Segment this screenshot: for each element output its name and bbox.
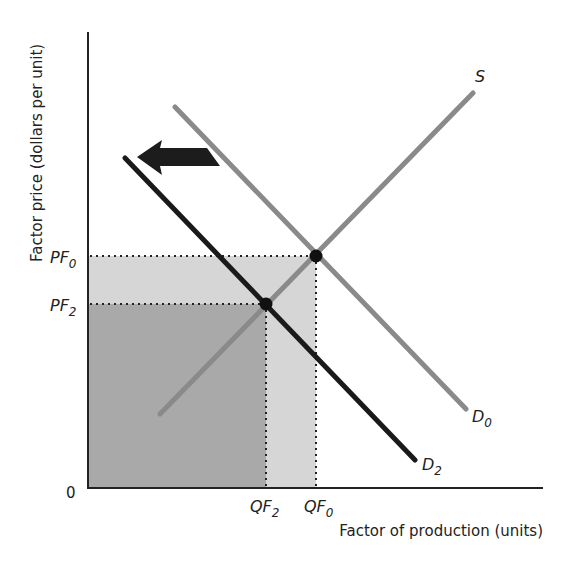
label-d0: D0 bbox=[472, 407, 492, 430]
y-axis-title: Factor price (dollars per unit) bbox=[28, 44, 46, 262]
origin-label: 0 bbox=[66, 484, 76, 502]
y-tick-pf0: PF0 bbox=[50, 248, 77, 271]
equilibrium-point-e2 bbox=[260, 298, 273, 311]
equilibrium-point-e0 bbox=[310, 250, 323, 263]
label-d2: D2 bbox=[422, 455, 442, 478]
x-axis-title: Factor of production (units) bbox=[339, 522, 543, 540]
shift-left-arrow-icon bbox=[137, 140, 220, 175]
x-tick-qf0: QF0 bbox=[304, 497, 334, 520]
chart: Factor price (dollars per unit) PF0 PF2 … bbox=[0, 0, 567, 564]
y-tick-pf2: PF2 bbox=[50, 296, 77, 319]
x-tick-qf2: QF2 bbox=[250, 497, 279, 520]
label-s: S bbox=[475, 67, 485, 86]
